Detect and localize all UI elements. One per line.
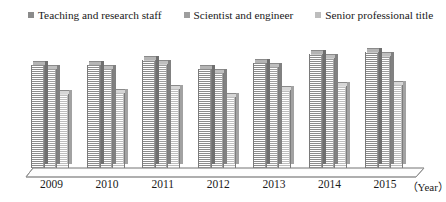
square-marker-icon	[315, 12, 321, 18]
bar-2011-series-1	[142, 60, 154, 168]
bar-front-face	[309, 54, 323, 168]
bar-group	[31, 24, 72, 179]
bar-front-face	[142, 60, 156, 168]
legend-item-senior-professional-title[interactable]: Senior professional title	[315, 9, 433, 22]
square-marker-icon	[184, 12, 190, 18]
x-tick-label-2015: 2015	[351, 178, 420, 190]
bar-group	[253, 24, 294, 179]
legend-item-teaching-and-research-staff[interactable]: Teaching and research staff	[28, 9, 162, 22]
bar-group	[142, 24, 183, 179]
legend-label: Teaching and research staff	[38, 9, 162, 22]
bar-2010-series-1	[87, 65, 99, 168]
bar-2013-series-1	[253, 63, 265, 168]
bar-group	[309, 24, 350, 179]
bar-2014-series-1	[309, 54, 321, 168]
bar-group	[198, 24, 239, 179]
bar-group	[365, 24, 406, 179]
bar-2015-series-1	[365, 52, 377, 168]
bar-front-face	[87, 65, 101, 168]
chart-legend: Teaching and research staff Scientist an…	[0, 6, 436, 24]
bar-series-container	[0, 24, 436, 179]
legend-label: Scientist and engineer	[194, 9, 294, 22]
bar-front-face	[31, 65, 45, 168]
legend-item-scientist-and-engineer[interactable]: Scientist and engineer	[184, 9, 294, 22]
bar-front-face	[365, 52, 379, 168]
square-marker-icon	[28, 12, 34, 18]
bar-2009-series-1	[31, 65, 43, 168]
x-axis-labels: （Year） 2009201020112012201320142015	[0, 178, 436, 202]
bar-2012-series-1	[198, 69, 210, 168]
plot-area	[0, 24, 436, 179]
bar-group	[87, 24, 128, 179]
bar-front-face	[198, 69, 212, 168]
legend-label: Senior professional title	[325, 9, 433, 22]
bar-front-face	[253, 63, 267, 168]
